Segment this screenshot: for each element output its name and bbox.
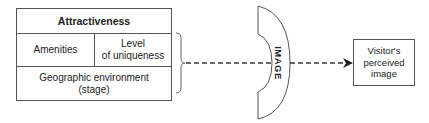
cell-amenities: Amenities (17, 34, 94, 66)
result-line3: image (371, 68, 397, 80)
uniqueness-line1: Level (121, 38, 145, 50)
geo-line2: (stage) (78, 84, 109, 96)
cell-uniqueness: Level of uniqueness (95, 34, 171, 66)
arrowhead-icon (343, 58, 353, 68)
lens-label: IMAGE (272, 39, 284, 87)
brace-icon (176, 33, 185, 93)
uniqueness-line2: of uniqueness (102, 50, 164, 62)
table-title: Attractiveness (17, 9, 171, 33)
result-box: Visitor's perceived image (354, 40, 414, 85)
cell-geographic-environment: Geographic environment (stage) (17, 67, 171, 100)
geo-line1: Geographic environment (39, 72, 149, 84)
result-line2: perceived (363, 57, 404, 69)
result-line1: Visitor's (368, 45, 401, 57)
